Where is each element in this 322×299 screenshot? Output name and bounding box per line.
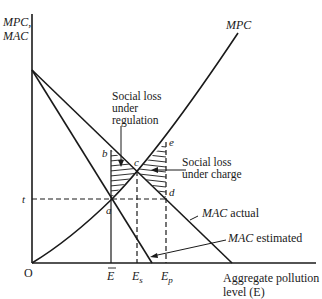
y-axis-label-line1: MPC, xyxy=(2,15,31,29)
mac-estimated-label: MAC estimated xyxy=(227,231,302,245)
e-s-label: Es xyxy=(131,269,143,285)
point-b-label: b xyxy=(102,147,108,159)
y-axis-label-line2: MAC xyxy=(2,29,29,43)
point-a-label: a xyxy=(106,204,112,216)
origin-label: O xyxy=(24,266,33,280)
point-c-label: c xyxy=(134,156,139,168)
hatch-social-loss-regulation xyxy=(100,147,150,197)
regulation-annotation-line3: regulation xyxy=(112,114,159,127)
regulation-arrowhead-icon xyxy=(118,160,124,167)
mac-actual-pointer xyxy=(190,216,198,220)
charge-annotation-line1: Social loss xyxy=(182,156,232,168)
charge-arrowhead-icon xyxy=(151,167,158,173)
point-e-label: e xyxy=(169,136,174,148)
regulation-annotation-line2: under xyxy=(112,102,138,114)
point-t-label: t xyxy=(22,193,26,205)
e-p-label: Ep xyxy=(160,269,173,285)
charge-annotation-line2: under charge xyxy=(182,168,242,181)
x-axis-label-line1: Aggregate pollution xyxy=(223,271,319,285)
regulation-annotation-line1: Social loss xyxy=(112,90,162,102)
mpc-label: MPC xyxy=(225,18,252,32)
e-bar-label: E xyxy=(106,269,115,283)
x-axis-label-line2: level (E) xyxy=(223,285,265,299)
mac-estimated-pointer xyxy=(153,240,226,256)
point-d-label: d xyxy=(169,186,175,198)
pollution-control-diagram: MPC, MAC O Aggregate pollution level (E)… xyxy=(0,0,322,299)
mac-estimated-arrowhead-icon xyxy=(150,253,158,258)
mpc-curve xyxy=(32,33,238,263)
mac-actual-label: MAC actual xyxy=(201,206,260,220)
